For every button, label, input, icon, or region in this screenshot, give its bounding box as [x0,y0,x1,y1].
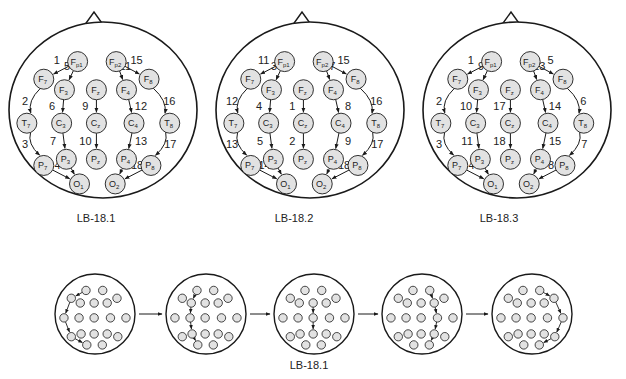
channel-number: 13 [135,135,147,147]
electrode-t8 [341,314,349,322]
sequence-head-4 [382,274,462,354]
caption-montage-1: LB-18.1 [56,212,136,224]
channel-number: 1 [54,54,60,66]
electrode-f7: F7 [448,69,468,89]
electrode-p4: P4 [117,149,137,169]
electrode-p7 [178,332,186,340]
electrode-cz [309,314,317,322]
electrode-f7: F7 [34,69,54,89]
electrode-f3 [187,299,195,307]
electrode-pz [90,330,98,338]
electrode-o2: O2 [105,174,125,194]
electrode-c4: C4 [124,113,144,133]
channel-number: 7 [50,135,56,147]
electrode-o1 [83,341,91,349]
eeg-montage-diagram: 123456789101112131415161718Fp1Fp2F7F3FzF… [0,0,626,379]
electrode-c4: C4 [331,113,351,133]
electrode-p3 [77,330,85,338]
channel-number: 13 [226,138,238,150]
electrode-f3 [403,299,411,307]
sequence-head-1 [55,274,135,354]
electrode-fp1: Fp1 [275,52,295,72]
electrode-fp2: Fp2 [313,52,333,72]
electrode-p7: P7 [448,155,468,175]
electrode-c3: C3 [52,113,72,133]
electrode-f8: F8 [139,69,159,89]
electrode-fp2 [318,286,326,294]
electrode-c4 [106,314,114,322]
electrode-t8 [449,314,457,322]
electrode-cz [201,314,209,322]
electrode-t7 [497,314,505,322]
electrode-f4: F4 [117,80,137,100]
channel-number: 17 [371,138,383,150]
electrode-pz [527,330,535,338]
electrode-fz: Fz [293,80,313,100]
electrode-t7: T7 [224,113,244,133]
electrode-c4 [325,314,333,322]
electrode-cz [90,314,98,322]
electrode-f7 [67,294,75,302]
channel-number: 15 [130,54,142,66]
electrode-t8 [559,314,567,322]
caption-montage-2: LB-18.2 [254,212,334,224]
electrode-p7: P7 [34,155,54,175]
electrode-t7: T7 [431,113,451,133]
channel-number: 11 [258,54,269,66]
electrode-fz [309,299,317,307]
electrode-t7 [279,314,287,322]
channel-number: 5 [548,54,554,66]
electrode-p4 [214,330,222,338]
electrode-cz [417,314,425,322]
electrode-p8 [333,332,341,340]
electrode-f4 [430,299,438,307]
sequence-head-2 [166,274,246,354]
channel-number: 15 [549,135,561,147]
channel-number: 15 [337,54,349,66]
electrode-p8 [441,332,449,340]
electrode-p7 [286,332,294,340]
electrode-f4: F4 [531,80,551,100]
electrode-fp1: Fp1 [482,52,502,72]
electrode-t7 [387,314,395,322]
channel-number: 17 [493,100,505,112]
channel-number: 12 [135,100,147,112]
electrode-fp2: Fp2 [520,52,540,72]
electrode-fp1 [519,286,527,294]
electrode-c3: C3 [259,113,279,133]
electrode-f3 [295,299,303,307]
electrode-cz: Cz [86,113,106,133]
electrode-fp2 [210,286,218,294]
electrode-cz: Cz [293,113,313,133]
channel-number: 11 [461,135,472,147]
electrode-fz [527,299,535,307]
electrode-pz [309,330,317,338]
electrode-f4 [322,299,330,307]
electrode-o1 [194,341,202,349]
electrode-f7 [178,294,186,302]
electrode-t7 [171,314,179,322]
electrode-o2: O2 [312,174,332,194]
electrode-f8 [550,294,558,302]
electrode-cz [527,314,535,322]
channel-number: 16 [370,95,382,107]
channel-number: 3 [436,138,442,150]
electrode-fp1 [301,286,309,294]
channel-number: 6 [49,100,55,112]
electrode-fp2: Fp2 [106,52,126,72]
channel-number: 10 [79,135,91,147]
electrode-fp2 [99,286,107,294]
electrode-p8 [225,332,233,340]
electrode-f8 [113,294,121,302]
electrode-f8 [224,294,232,302]
electrode-c3 [402,314,410,322]
electrode-fz: Fz [500,80,520,100]
electrode-t8: T8 [574,113,594,133]
electrode-t7 [60,314,68,322]
electrode-c3: C3 [466,113,486,133]
channel-number: 1 [289,100,295,112]
channel-number: 2 [289,135,295,147]
electrode-f4 [103,299,111,307]
electrode-t8 [122,314,130,322]
electrode-f7 [504,294,512,302]
